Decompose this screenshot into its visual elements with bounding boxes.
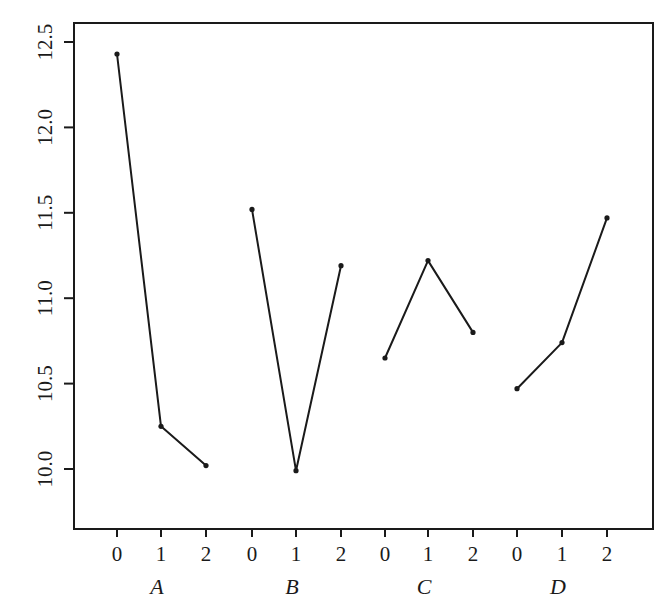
x-tick-label: 0 <box>112 542 123 566</box>
data-point <box>249 207 254 212</box>
data-point <box>470 330 475 335</box>
x-tick-label: 1 <box>557 542 568 566</box>
group-label-c: C <box>417 574 432 599</box>
series-b <box>249 207 343 474</box>
data-point <box>425 258 430 263</box>
x-tick-label: 2 <box>602 542 613 566</box>
y-tick-label: 12.5 <box>33 24 57 61</box>
data-point <box>114 51 119 56</box>
data-point <box>559 340 564 345</box>
data-point <box>604 215 609 220</box>
group-label-d: D <box>549 574 566 599</box>
x-tick-label: 0 <box>512 542 523 566</box>
series-a <box>114 51 208 468</box>
x-tick-label: 2 <box>201 542 212 566</box>
x-axis: 012A012B012C012D <box>112 529 613 599</box>
data-point <box>293 468 298 473</box>
group-label-a: A <box>148 574 164 599</box>
series-c <box>382 258 475 361</box>
series-line <box>117 54 206 466</box>
x-tick-label: 0 <box>380 542 391 566</box>
x-tick-label: 1 <box>423 542 434 566</box>
x-tick-label: 2 <box>336 542 347 566</box>
y-tick-label: 10.0 <box>33 451 57 488</box>
y-tick-label: 12.0 <box>33 109 57 146</box>
y-axis: 10.010.511.011.512.012.5 <box>33 24 74 488</box>
x-tick-label: 0 <box>247 542 258 566</box>
y-tick-label: 11.5 <box>33 195 57 231</box>
factor-level-line-chart: 10.010.511.011.512.012.5 012A012B012C012… <box>0 0 663 611</box>
data-point <box>158 424 163 429</box>
data-point <box>338 263 343 268</box>
series-line <box>252 209 341 470</box>
y-tick-label: 11.0 <box>33 280 57 316</box>
y-tick-label: 10.5 <box>33 365 57 402</box>
group-label-b: B <box>285 574 298 599</box>
series-d <box>514 215 609 391</box>
plot-border <box>74 23 653 529</box>
series-line <box>385 261 473 358</box>
plot-frame <box>74 23 653 529</box>
x-tick-label: 1 <box>156 542 167 566</box>
data-point <box>514 386 519 391</box>
x-tick-label: 1 <box>291 542 302 566</box>
x-tick-label: 2 <box>468 542 479 566</box>
data-series <box>114 51 609 473</box>
data-point <box>203 463 208 468</box>
data-point <box>382 355 387 360</box>
series-line <box>517 218 607 389</box>
